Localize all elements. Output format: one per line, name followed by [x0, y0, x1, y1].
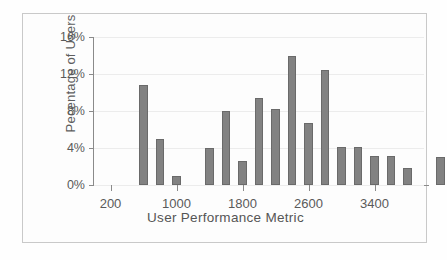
- bar: [271, 109, 280, 185]
- y-tick-label: 8%: [67, 104, 85, 118]
- x-tick-mark: [177, 185, 178, 191]
- plot-area: 0%4%8%12%16% 2001000180026003400: [94, 37, 424, 185]
- x-tick-label: 200: [100, 196, 122, 211]
- gridline: [94, 37, 424, 38]
- y-tick-label: 16%: [60, 30, 85, 44]
- bar: [387, 156, 396, 185]
- y-tick-label: 4%: [67, 141, 85, 155]
- x-tick-label: 1800: [228, 196, 257, 211]
- y-tick-mark: [89, 111, 94, 112]
- x-tick-label: 1000: [162, 196, 191, 211]
- y-tick-label: 0%: [67, 178, 85, 192]
- bar: [304, 123, 313, 185]
- x-tick-mark: [375, 185, 376, 191]
- bar: [288, 56, 297, 185]
- bar: [255, 98, 264, 185]
- bar: [139, 85, 148, 185]
- x-tick-mark: [243, 185, 244, 191]
- x-axis-title: User Performance Metric: [23, 210, 428, 225]
- bar: [337, 147, 346, 185]
- chart-frame: Pecentage of Users 0%4%8%12%16% 20010001…: [22, 13, 427, 243]
- bar: [156, 139, 165, 185]
- gridline: [94, 74, 424, 75]
- bar: [403, 168, 412, 185]
- bar: [172, 176, 181, 185]
- bar: [222, 111, 231, 185]
- y-tick-mark: [89, 74, 94, 75]
- x-tick-label: 3400: [360, 196, 389, 211]
- x-tick-mark: [309, 185, 310, 191]
- y-tick-label: 12%: [60, 67, 85, 81]
- y-tick-mark: [89, 185, 94, 186]
- x-tick-label: 2600: [294, 196, 323, 211]
- bar: [436, 157, 445, 185]
- y-tick-mark: [89, 148, 94, 149]
- chart-screenshot: Pecentage of Users 0%4%8%12%16% 20010001…: [0, 0, 447, 260]
- bar: [370, 156, 379, 185]
- bar: [205, 148, 214, 185]
- bar: [321, 70, 330, 185]
- y-tick-mark: [89, 37, 94, 38]
- bar: [238, 161, 247, 185]
- bar: [354, 147, 363, 185]
- x-tick-mark: [111, 185, 112, 191]
